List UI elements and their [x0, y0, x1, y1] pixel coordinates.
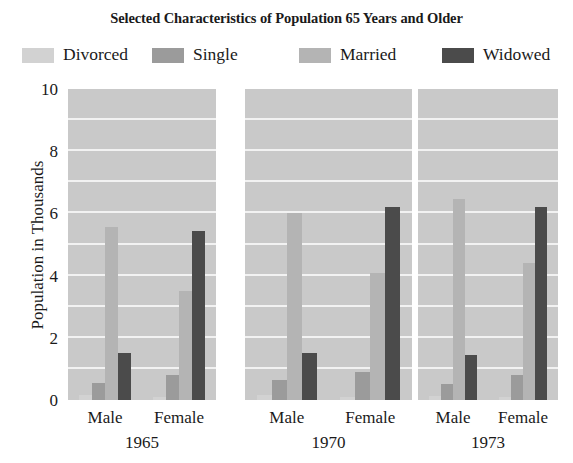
x-tick-sex-label: Male — [269, 408, 304, 428]
chart-panel-1970 — [245, 89, 412, 400]
legend-swatch-icon — [299, 48, 331, 63]
legend-item-divorced[interactable]: Divorced — [22, 42, 128, 68]
gridline — [68, 118, 216, 120]
bar-1970-female-married — [370, 273, 385, 401]
bar-1965-male-widowed — [118, 353, 131, 400]
x-tick-sex-label: Female — [154, 408, 204, 428]
legend-label: Widowed — [483, 46, 550, 64]
bar-1970-female-single — [355, 372, 370, 400]
bar-1973-female-divorced — [499, 397, 511, 400]
bar-1965-male-single — [92, 383, 105, 400]
legend-swatch-icon — [22, 48, 54, 63]
x-axis: MaleFemale1965MaleFemale1970MaleFemale19… — [0, 408, 573, 463]
bar-1970-female-divorced — [340, 397, 355, 400]
legend-swatch-icon — [152, 48, 184, 63]
chart-panel-1973 — [418, 89, 558, 400]
x-tick-sex-label: Female — [498, 408, 548, 428]
bar-1965-female-divorced — [153, 397, 166, 400]
gridline — [68, 211, 216, 213]
x-tick-sex-label: Male — [436, 408, 471, 428]
bar-1970-male-married — [287, 213, 302, 400]
plot-area — [0, 80, 573, 410]
gridline — [418, 118, 558, 120]
chart-legend: DivorcedSingleMarriedWidowed — [22, 42, 562, 68]
bar-1965-male-married — [105, 227, 118, 400]
bar-1965-female-married — [179, 291, 192, 400]
legend-label: Divorced — [63, 46, 128, 64]
bar-1965-female-widowed — [192, 231, 205, 400]
chart-panel-1965 — [68, 89, 216, 400]
bar-1973-male-divorced — [429, 396, 441, 400]
bar-1973-female-single — [511, 375, 523, 400]
gridline — [418, 149, 558, 151]
chart-title: Selected Characteristics of Population 6… — [0, 10, 573, 27]
legend-label: Single — [193, 46, 238, 64]
bar-1970-male-divorced — [257, 395, 272, 400]
legend-item-married[interactable]: Married — [299, 42, 396, 68]
x-tick-sex-label: Male — [88, 408, 123, 428]
x-tick-year-label: 1970 — [312, 433, 346, 453]
gridline — [245, 118, 412, 120]
legend-label: Married — [340, 46, 396, 64]
legend-swatch-icon — [442, 48, 474, 63]
bar-1973-female-widowed — [535, 207, 547, 400]
legend-item-single[interactable]: Single — [152, 42, 238, 68]
bar-1965-male-divorced — [79, 395, 92, 400]
bar-1970-male-widowed — [302, 353, 317, 400]
gridline — [68, 180, 216, 182]
bar-1965-female-single — [166, 375, 179, 400]
bar-chart-figure: Selected Characteristics of Population 6… — [0, 0, 573, 463]
x-tick-year-label: 1973 — [471, 433, 505, 453]
legend-item-widowed[interactable]: Widowed — [442, 42, 550, 68]
gridline — [68, 149, 216, 151]
bar-1973-male-single — [441, 384, 453, 400]
bar-1973-female-married — [523, 263, 535, 400]
x-tick-sex-label: Female — [345, 408, 395, 428]
gridline — [418, 180, 558, 182]
bar-1973-male-widowed — [465, 355, 477, 400]
bar-1970-female-widowed — [385, 207, 400, 400]
gridline — [245, 149, 412, 151]
gridline — [245, 180, 412, 182]
x-tick-year-label: 1965 — [125, 433, 159, 453]
bar-1970-male-single — [272, 380, 287, 400]
bar-1973-male-married — [453, 199, 465, 400]
